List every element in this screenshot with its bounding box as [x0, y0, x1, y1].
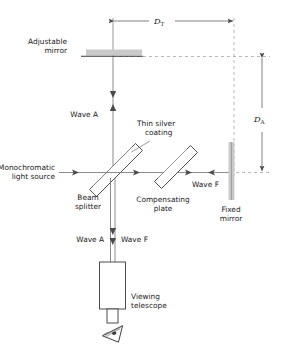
compensating-plate-label-line1: Compensating	[136, 195, 190, 204]
adjustable-mirror-body	[86, 50, 142, 56]
beam-splitter[interactable]	[90, 144, 143, 197]
eye-outline	[101, 326, 126, 346]
telescope-label-line2: telescope	[131, 301, 167, 310]
fixed-mirror[interactable]	[229, 142, 235, 200]
wave-a-beam	[110, 57, 116, 173]
wave-a-upper-label: Wave A	[70, 110, 98, 119]
output-beam	[110, 178, 116, 262]
wave-f-right-label: Wave F	[192, 180, 219, 189]
fixed-mirror-label-line1: Fixed	[221, 205, 240, 214]
viewing-telescope[interactable]	[100, 262, 126, 323]
beam-splitter-label-line2: splitter	[75, 202, 102, 211]
da-label: DA	[253, 114, 266, 125]
monochromatic-label-line2: light source	[12, 172, 56, 181]
compensating-plate-label-line2: plate	[154, 204, 173, 213]
telescope-barrel	[100, 262, 126, 309]
beam-splitter-body	[90, 144, 143, 197]
adjustable-mirror[interactable]	[81, 50, 143, 57]
eye-icon	[101, 326, 126, 346]
dimension-da: DA	[253, 58, 266, 171]
thin-silver-label-line1: Thin silver	[136, 119, 176, 128]
telescope-eyepiece	[107, 309, 118, 323]
dt-label: DT	[153, 16, 165, 27]
figure-canvas: DT DA Adjustable mirror Wave A Beam spli…	[0, 0, 284, 360]
wave-a-arrow-down	[110, 91, 116, 98]
beam-splitter-label-line1: Beam	[77, 193, 98, 202]
wave-a-arrow-up	[110, 104, 116, 111]
thin-silver-label-line2: coating	[145, 128, 173, 137]
adjustable-mirror-label-line2: mirror	[44, 46, 68, 55]
interferometer-diagram: DT DA Adjustable mirror Wave A Beam spli…	[0, 0, 284, 360]
telescope-label-line1: Viewing	[131, 292, 160, 301]
monochromatic-label-line1: Monochromatic	[0, 163, 55, 172]
fixed-mirror-label-line2: mirror	[220, 214, 244, 223]
adjustable-mirror-label-line1: Adjustable	[28, 37, 67, 46]
wave-a-lower-label: Wave A	[76, 235, 104, 244]
wave-f-lower-label: Wave F	[121, 235, 148, 244]
